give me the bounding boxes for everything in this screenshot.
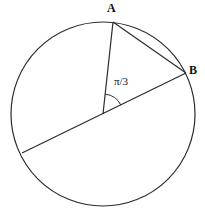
angle-label-pi-over-3: π/3 [114, 76, 128, 87]
point-label-a: A [107, 2, 116, 14]
point-label-b: B [189, 64, 197, 76]
radius-segment-oa [103, 22, 113, 114]
geometry-canvas [0, 0, 205, 212]
central-angle-arc [105, 94, 121, 105]
chord-segment-ab [113, 22, 186, 73]
diameter-segment-bc [22, 73, 186, 153]
geometry-figure: A B π/3 [0, 0, 205, 212]
